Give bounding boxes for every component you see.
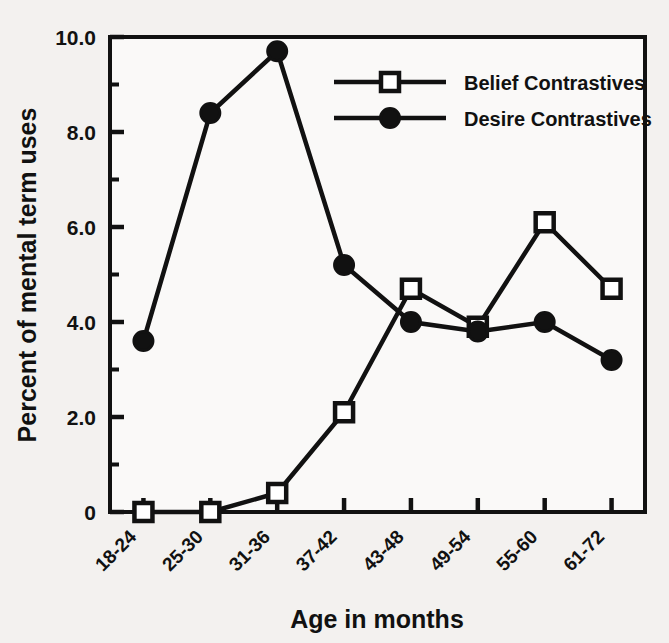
data-point-marker — [201, 503, 219, 521]
data-point-marker — [134, 332, 153, 351]
data-point-marker — [402, 280, 420, 298]
data-point-marker — [201, 104, 220, 123]
line-chart: 02.04.06.08.010.0 18-2425-3031-3637-4243… — [0, 0, 669, 643]
data-point-marker — [602, 351, 621, 370]
legend-label: Belief Contrastives — [464, 72, 645, 94]
y-axis-tick-label: 2.0 — [67, 406, 96, 429]
y-axis-tick-label: 6.0 — [67, 216, 96, 239]
legend-marker-icon — [381, 109, 400, 128]
y-axis-tick-label: 4.0 — [67, 311, 96, 334]
y-axis-tick-label: 8.0 — [67, 121, 96, 144]
data-point-marker — [335, 256, 354, 275]
data-point-marker — [401, 313, 420, 332]
chart-figure: 02.04.06.08.010.0 18-2425-3031-3637-4243… — [0, 0, 669, 643]
data-point-marker — [134, 503, 152, 521]
legend-item: Belief Contrastives — [334, 72, 645, 94]
data-point-marker — [335, 403, 353, 421]
data-point-marker — [268, 42, 287, 61]
data-point-marker — [535, 313, 554, 332]
legend-marker-icon — [381, 73, 399, 91]
data-point-marker — [468, 322, 487, 341]
data-point-marker — [603, 280, 621, 298]
data-point-marker — [536, 213, 554, 231]
data-point-marker — [268, 484, 286, 502]
x-axis-title: Age in months — [290, 605, 464, 633]
y-axis-title: Percent of mental term uses — [13, 108, 41, 443]
legend-label: Desire Contrastives — [464, 108, 652, 130]
y-axis-tick-label: 0 — [84, 501, 96, 524]
y-axis-tick-label: 10.0 — [55, 26, 96, 49]
